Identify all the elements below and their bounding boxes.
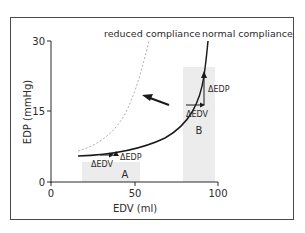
normal-compliance-label: normal compliance — [202, 28, 293, 39]
x-tick-50: 50 — [129, 188, 142, 199]
region-a-dedv: ΔEDV — [91, 160, 114, 169]
region-b-dedp: ΔEDP — [208, 85, 230, 94]
x-tick-0: 0 — [48, 188, 54, 199]
y-tick-30: 30 — [32, 36, 45, 47]
region-a-dedp: ΔEDP — [120, 153, 142, 162]
compliance-chart: 30 15 0 0 50 100 EDV (ml) EDP (mmHg) red… — [0, 0, 305, 233]
x-tick-100: 100 — [208, 188, 227, 199]
shift-arrow-head — [142, 94, 153, 101]
region-a-label: A — [122, 169, 129, 180]
reduced-compliance-curve — [78, 41, 149, 151]
x-axis-label: EDV (ml) — [113, 203, 157, 214]
region-b-dedv: ΔEDV — [186, 110, 209, 119]
region-b-label: B — [196, 125, 203, 136]
y-tick-0: 0 — [39, 177, 45, 188]
y-tick-15: 15 — [32, 106, 45, 117]
shift-arrow — [150, 98, 169, 105]
y-axis-label: EDP (mmHg) — [22, 80, 33, 144]
reduced-compliance-label: reduced compliance — [104, 28, 200, 39]
